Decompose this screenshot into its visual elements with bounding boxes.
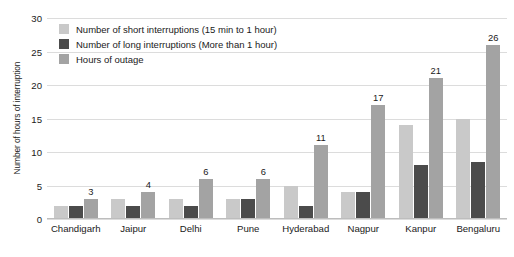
legend-item: Hours of outage	[59, 52, 277, 66]
x-tick-label: Jaipur	[105, 223, 163, 234]
bar	[284, 186, 298, 220]
bar	[184, 206, 198, 219]
bar	[399, 125, 413, 219]
bar	[169, 199, 183, 219]
x-tick-label: Delhi	[162, 223, 220, 234]
legend-label: Hours of outage	[76, 54, 144, 65]
bar: 3	[84, 199, 98, 219]
legend-swatch-icon	[59, 24, 69, 34]
bar-group: 26	[450, 18, 508, 219]
bar	[126, 206, 140, 219]
x-axis-line	[47, 218, 507, 219]
x-tick-label: Kanpur	[392, 223, 450, 234]
bar: 21	[429, 78, 443, 219]
bar-value-label: 11	[316, 132, 326, 143]
x-tick-label: Chandigarh	[47, 223, 105, 234]
bar: 17	[371, 105, 385, 219]
bar-group: 17	[335, 18, 393, 219]
x-tick-label: Bengaluru	[450, 223, 508, 234]
bar: 6	[199, 179, 213, 219]
bar-value-label: 3	[88, 186, 93, 197]
bar-value-label: 6	[203, 166, 208, 177]
bar-value-label: 4	[146, 179, 151, 190]
chart-legend: Number of short interruptions (15 min to…	[59, 22, 277, 67]
bar-value-label: 17	[373, 92, 383, 103]
y-tick-label: 20	[31, 80, 42, 91]
bar	[226, 199, 240, 219]
bar	[54, 206, 68, 219]
bar-group: 11	[277, 18, 335, 219]
bar	[111, 199, 125, 219]
y-tick-label: 5	[37, 180, 42, 191]
legend-item: Number of long interruptions (More than …	[59, 37, 277, 51]
legend-item: Number of short interruptions (15 min to…	[59, 22, 277, 36]
y-tick-label: 15	[31, 113, 42, 124]
bar: 26	[486, 45, 500, 219]
bar-value-label: 6	[261, 166, 266, 177]
bar	[299, 206, 313, 219]
bar	[414, 165, 428, 219]
bar	[356, 192, 370, 219]
y-tick-label: 30	[31, 13, 42, 24]
x-tick-label: Nagpur	[335, 223, 393, 234]
x-axis-labels: ChandigarhJaipurDelhiPuneHyderabadNagpur…	[47, 223, 507, 234]
legend-swatch-icon	[59, 39, 69, 49]
bar	[241, 199, 255, 219]
legend-label: Number of long interruptions (More than …	[76, 39, 277, 50]
bar	[69, 206, 83, 219]
bar-value-label: 26	[488, 32, 498, 43]
bar: 6	[256, 179, 270, 219]
y-tick-label: 10	[31, 147, 42, 158]
bar: 4	[141, 192, 155, 219]
bar-value-label: 21	[431, 65, 441, 76]
legend-label: Number of short interruptions (15 min to…	[76, 24, 277, 35]
y-tick-label: 0	[37, 214, 42, 225]
y-tick-label: 25	[31, 46, 42, 57]
bar-chart: Number of hours of interruption 05101520…	[0, 0, 514, 257]
x-tick-label: Hyderabad	[277, 223, 335, 234]
bar: 11	[314, 145, 328, 219]
gridline: 0	[47, 219, 507, 220]
x-tick-label: Pune	[220, 223, 278, 234]
bar	[471, 162, 485, 219]
bar-group: 21	[392, 18, 450, 219]
bar	[456, 119, 470, 220]
legend-swatch-icon	[59, 54, 69, 64]
y-axis-title: Number of hours of interruption	[10, 8, 24, 228]
bar	[341, 192, 355, 219]
